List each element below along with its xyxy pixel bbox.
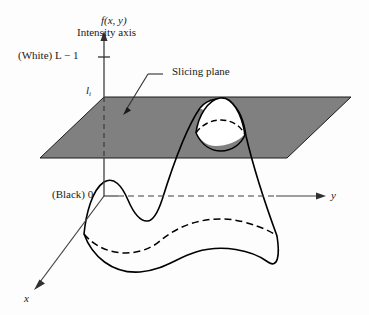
x-axis-label: x (24, 292, 29, 304)
slice-level-subscript: i (89, 90, 91, 98)
base-front-contour (84, 234, 278, 272)
function-label: f(x, y) (101, 14, 127, 26)
x-axis-line (40, 196, 104, 282)
black-level-label: (Black) 0 (52, 188, 93, 200)
intensity-axis-caption: Intensity axis (77, 26, 136, 38)
white-level-label: (White) L − 1 (18, 49, 78, 61)
slicing-plane (40, 97, 351, 158)
intensity-slicing-figure (0, 0, 369, 315)
slice-level-label: li (86, 84, 91, 98)
base-back-contour (84, 219, 277, 253)
y-axis-arrowhead (316, 193, 326, 200)
y-axis-label: y (331, 189, 336, 201)
x-axis-arrowhead (34, 280, 45, 291)
slicing-plane-label: Slicing plane (172, 65, 230, 77)
